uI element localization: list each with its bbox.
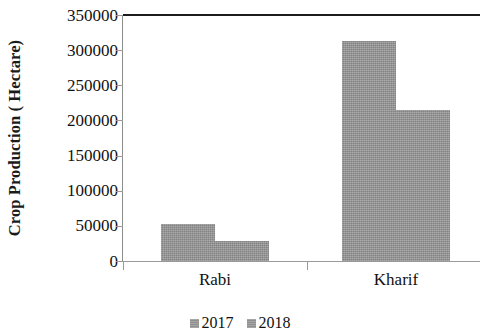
bar-rabi-2017	[161, 224, 215, 261]
y-axis-tick-label: 350000	[30, 7, 118, 24]
bar-kharif-2018	[396, 110, 450, 261]
y-axis-tick-mark	[116, 50, 123, 51]
legend-item-2017[interactable]: 2017	[190, 315, 234, 331]
x-axis-line	[123, 261, 480, 262]
x-axis-category-label-rabi: Rabi	[165, 268, 265, 292]
y-axis-tick-mark	[116, 156, 123, 157]
y-axis-tick-label: 50000	[30, 217, 118, 234]
y-axis-tick-labels: 3500003000002500002000001500001000005000…	[30, 0, 118, 276]
y-axis-tick-mark	[116, 15, 123, 16]
plot-area	[123, 15, 480, 261]
y-axis-tick-mark	[116, 191, 123, 192]
bar-kharif-2017	[342, 41, 396, 261]
y-axis-tick-label: 0	[30, 253, 118, 270]
legend-swatch-2018	[247, 319, 256, 328]
y-axis-tick-label: 100000	[30, 182, 118, 199]
x-axis-category-labels: RabiKharif	[123, 268, 480, 296]
y-axis-tick-label: 150000	[30, 147, 118, 164]
y-axis-tick-label: 300000	[30, 42, 118, 59]
y-axis-tick-mark	[116, 261, 123, 262]
chart-legend: 20172018	[0, 310, 480, 336]
legend-label: 2017	[202, 315, 234, 331]
y-axis-tick-label: 250000	[30, 77, 118, 94]
legend-label: 2018	[259, 315, 291, 331]
y-axis-title-text: Crop Production ( Hectare)	[5, 40, 25, 236]
bar-rabi-2018	[215, 241, 269, 261]
y-axis-title: Crop Production ( Hectare)	[0, 0, 30, 276]
y-axis-tick-mark	[116, 120, 123, 121]
legend-swatch-2017	[190, 319, 199, 328]
x-axis-category-label-kharif: Kharif	[346, 268, 446, 292]
y-axis-tick-mark	[116, 85, 123, 86]
y-axis-tick-mark	[116, 226, 123, 227]
y-axis-tick-label: 200000	[30, 112, 118, 129]
bar-chart-figure: Crop Production ( Hectare) 3500003000002…	[0, 0, 480, 336]
legend-item-2018[interactable]: 2018	[247, 315, 291, 331]
